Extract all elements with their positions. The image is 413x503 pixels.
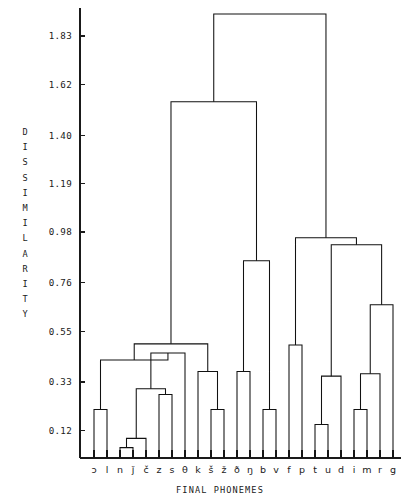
x-tick-label: k — [195, 464, 201, 475]
dendrogram-link — [211, 410, 224, 458]
x-tick-label: t — [313, 464, 317, 475]
x-tick-label: p — [299, 464, 305, 475]
y-axis-title-char: T — [22, 294, 27, 304]
y-tick-label: 0.12 — [49, 425, 72, 436]
dendrogram-link — [289, 345, 302, 458]
x-axis-title: FINAL PHONEMES — [176, 485, 264, 495]
y-axis-title-char: I — [22, 279, 27, 289]
dendrogram-link — [136, 389, 165, 439]
dendrogram-figure: 0.120.330.550.760.981.191.401.621.83 ɔln… — [0, 0, 413, 503]
y-axis — [80, 8, 85, 458]
dendrogram-link — [331, 245, 381, 376]
dendrogram-link — [159, 395, 172, 458]
y-axis-title-char: S — [22, 157, 27, 167]
dendrogram-link — [370, 305, 393, 458]
x-tick-label: ǰ — [131, 464, 135, 475]
y-tick-label: 0.76 — [49, 277, 72, 288]
y-axis-title-char: R — [22, 264, 28, 274]
dendrogram-link — [263, 410, 276, 458]
x-tick-label: g — [390, 464, 396, 475]
y-tick-label: 1.62 — [49, 79, 72, 90]
x-tick-label: č — [143, 464, 148, 475]
x-tick-labels: ɔlnǰčzsθkšžðŋbvfptudimrg — [91, 464, 396, 475]
dendrogram-link — [296, 238, 357, 345]
y-axis-title-char: M — [22, 203, 27, 213]
y-tick-label: 0.98 — [49, 226, 72, 237]
y-axis-title-char: A — [22, 249, 28, 259]
dendrogram-link — [244, 261, 270, 410]
dendrogram-link — [315, 425, 328, 458]
x-tick-label: l — [106, 464, 109, 475]
dendrogram-link — [127, 438, 147, 458]
dendrogram-link — [354, 410, 367, 458]
y-tick-label: 1.40 — [49, 130, 72, 141]
x-axis — [80, 450, 401, 458]
x-tick-label: θ — [182, 464, 188, 475]
x-tick-label: ž — [222, 464, 227, 475]
x-tick-label: ð — [234, 464, 240, 475]
dendrogram-link — [120, 448, 133, 458]
dendrogram-link — [101, 353, 168, 409]
dendrogram-link — [134, 344, 208, 372]
y-axis-title-char: I — [22, 142, 27, 152]
x-tick-label: ŋ — [247, 464, 253, 475]
y-tick-label: 0.55 — [49, 326, 72, 337]
x-tick-label: n — [117, 464, 123, 475]
dendrogram-link — [198, 372, 218, 458]
dendrogram-link — [322, 376, 342, 458]
dendrogram-link — [237, 372, 250, 458]
y-axis-title-char: L — [22, 233, 27, 243]
dendrogram-links — [94, 14, 393, 458]
dendrogram-link — [214, 14, 326, 238]
dendrogram-link — [94, 410, 107, 458]
x-tick-label: u — [325, 464, 331, 475]
x-tick-label: š — [209, 464, 214, 475]
x-tick-label: d — [338, 464, 344, 475]
y-tick-label: 1.19 — [49, 178, 72, 189]
y-tick-label: 0.33 — [49, 376, 72, 387]
x-tick-label: r — [378, 464, 382, 475]
x-tick-label: b — [260, 464, 266, 475]
y-axis-title-char: I — [22, 188, 27, 198]
dendrogram-link — [151, 353, 185, 458]
x-tick-label: f — [287, 464, 291, 475]
x-tick-label: ɔ — [91, 464, 96, 475]
x-tick-label: z — [157, 464, 162, 475]
dendrogram-link — [361, 374, 381, 458]
y-axis-title-char: I — [22, 218, 27, 228]
y-tick-labels: 0.120.330.550.760.981.191.401.621.83 — [49, 30, 72, 435]
y-tick-label: 1.83 — [49, 30, 72, 41]
x-tick-label: i — [353, 464, 356, 475]
y-axis-title: DISSIMILARITY — [22, 127, 28, 319]
x-tick-label: s — [170, 464, 175, 475]
x-tick-label: m — [362, 464, 371, 475]
y-axis-title-char: S — [22, 173, 27, 183]
y-axis-title-char: Y — [22, 309, 28, 319]
x-tick-label: v — [273, 464, 279, 475]
y-axis-title-char: D — [22, 127, 27, 137]
